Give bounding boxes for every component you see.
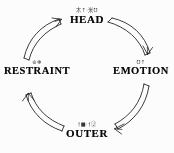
node-emotion-annotation: ℧↑ (108, 60, 174, 65)
node-head-label: HEAD (52, 14, 122, 25)
node-emotion-label: EMOTION (108, 66, 174, 77)
node-outer-annotation: †■·†Ⓙ (52, 122, 122, 127)
node-head[interactable]: 木↑·米℧ HEAD (52, 8, 122, 25)
node-restraint-label: RESTRAINT (2, 66, 72, 77)
node-head-annotation: 木↑·米℧ (52, 8, 122, 13)
node-outer-label: OUTER (52, 128, 122, 139)
node-outer[interactable]: †■·†Ⓙ OUTER (52, 122, 122, 139)
node-restraint-annotation: ⊚✻ (2, 60, 72, 65)
node-restraint[interactable]: ⊚✻ RESTRAINT (2, 60, 72, 77)
node-emotion[interactable]: ℧↑ EMOTION (108, 60, 174, 77)
cycle-diagram: 木↑·米℧ HEAD ℧↑ EMOTION †■·†Ⓙ OUTER ⊚✻ RES… (0, 0, 174, 153)
